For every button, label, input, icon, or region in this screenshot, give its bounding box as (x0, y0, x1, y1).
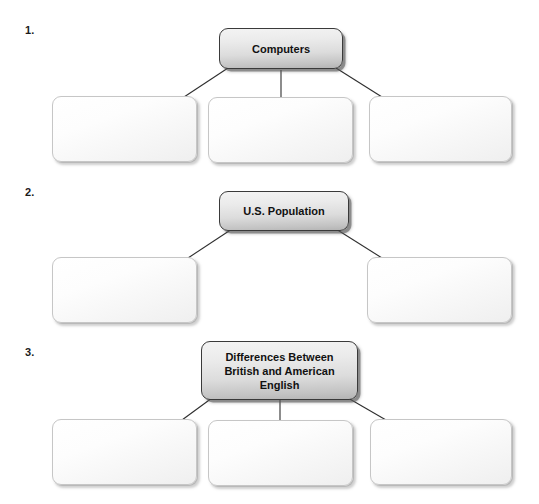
organizer-3-child-box-1[interactable] (52, 419, 197, 485)
organizer-3-root-box[interactable]: Differences Between British and American… (201, 341, 358, 400)
organizer-2-child-box-1[interactable] (52, 257, 197, 323)
organizer-1-child-box-3[interactable] (369, 96, 512, 162)
organizer-1-root-label: Computers (252, 42, 310, 56)
worksheet-page: 1. Computers 2. U.S. Population 3. Diffe… (0, 0, 539, 504)
connector-1-right (336, 68, 382, 97)
organizer-3-root-line-3: English (260, 379, 300, 391)
connector-1-left (184, 68, 228, 97)
organizer-3-child-box-3[interactable] (370, 419, 512, 485)
exercise-number-2: 2. (25, 187, 35, 198)
organizer-2-root-box[interactable]: U.S. Population (219, 191, 349, 231)
exercise-number-3: 3. (25, 347, 35, 358)
connector-2-left (188, 229, 232, 258)
connector-3-right (348, 398, 386, 420)
organizer-3-root-line-2: British and American (224, 365, 334, 377)
connector-2-right (336, 229, 382, 258)
organizer-3-child-box-2[interactable] (208, 420, 353, 486)
organizer-3-root-label: Differences Between British and American… (224, 350, 334, 392)
organizer-3-root-line-1: Differences Between (225, 351, 333, 363)
organizer-2-root-label: U.S. Population (243, 204, 324, 218)
organizer-1-child-box-1[interactable] (52, 96, 197, 162)
organizer-1-child-box-2[interactable] (208, 97, 353, 163)
exercise-number-1: 1. (25, 25, 35, 36)
connector-3-left (182, 398, 212, 420)
organizer-1-root-box[interactable]: Computers (219, 28, 343, 69)
organizer-2-child-box-2[interactable] (367, 257, 512, 323)
